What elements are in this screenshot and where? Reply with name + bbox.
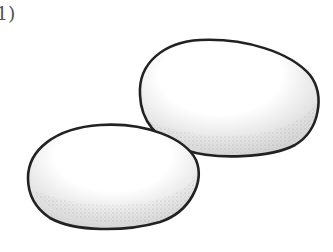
eggs-illustration	[0, 0, 333, 252]
egg-front	[28, 125, 199, 229]
